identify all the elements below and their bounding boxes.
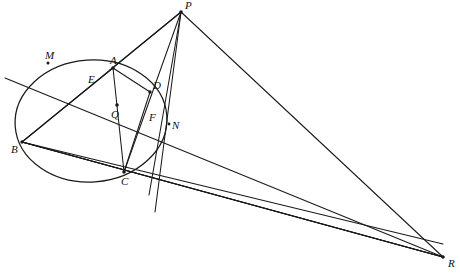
point-label-N: N [172,120,179,131]
vertex-dot-Q [115,103,119,107]
vertex-dot-N [168,123,171,126]
vertex-dot-A [111,66,114,69]
chord-a-d [113,68,150,92]
chord-b-a [22,68,113,142]
point-label-M: M [45,50,54,61]
vertex-dot-P [179,10,183,14]
point-label-Q: Q [111,109,119,120]
ray-b-to-d [22,142,443,244]
ray-b-to-c-r [22,142,443,257]
point-label-B: B [11,144,18,155]
chord-d-c [124,92,150,172]
line-p-r [181,12,443,257]
point-label-F: F [149,112,156,123]
chord-a-c [113,68,124,172]
geometry-figure: P M A E D Q F N B C R [0,0,460,274]
vertex-dot-R [441,255,445,259]
vertex-dot-D [148,90,151,93]
vertex-dot-C [122,170,126,174]
line-m-e-q-f-n-r [5,78,443,257]
vertex-dot-B [20,140,23,143]
geometry-canvas [0,0,460,274]
vertex-dot-M [47,62,50,65]
point-label-R: R [448,258,455,269]
point-label-D: D [153,80,161,91]
point-label-P: P [185,0,192,11]
point-label-C: C [121,176,128,187]
point-label-E: E [88,74,95,85]
line-p-q-c [124,12,181,172]
point-label-A: A [110,55,117,66]
line-p-d-f [149,12,181,195]
